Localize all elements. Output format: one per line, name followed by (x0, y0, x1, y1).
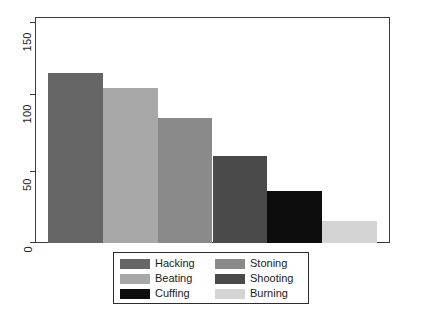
y-tick-label: 100 (23, 104, 34, 123)
legend-label: Shooting (250, 273, 293, 284)
legend-swatch-icon (215, 289, 245, 299)
bar-chart: 0 50 100 150 HackingStoningBeatingShooti… (0, 0, 422, 315)
bar-hacking (48, 73, 103, 243)
legend-item-stoning: Stoning (215, 256, 302, 271)
legend: HackingStoningBeatingShootingCuffingBurn… (113, 252, 309, 304)
bar-burning (322, 221, 377, 243)
bar-stoning (158, 118, 213, 243)
y-tick-label: 50 (23, 178, 34, 191)
legend-swatch-icon (120, 289, 150, 299)
bars-container (36, 18, 389, 243)
legend-swatch-icon (120, 274, 150, 284)
legend-item-hacking: Hacking (120, 256, 207, 271)
legend-label: Hacking (155, 258, 195, 269)
y-axis: 0 50 100 150 (0, 0, 36, 315)
legend-swatch-icon (215, 274, 245, 284)
y-tick-label: 150 (23, 32, 34, 51)
legend-swatch-icon (120, 259, 150, 269)
legend-label: Cuffing (155, 288, 190, 299)
legend-label: Beating (155, 273, 192, 284)
legend-label: Burning (250, 288, 288, 299)
legend-item-beating: Beating (120, 271, 207, 286)
legend-swatch-icon (215, 259, 245, 269)
legend-item-cuffing: Cuffing (120, 286, 207, 301)
legend-label: Stoning (250, 258, 287, 269)
legend-item-shooting: Shooting (215, 271, 302, 286)
bar-shooting (213, 156, 268, 243)
y-tick-label: 0 (23, 246, 34, 252)
legend-grid: HackingStoningBeatingShootingCuffingBurn… (120, 256, 302, 300)
legend-item-burning: Burning (215, 286, 302, 301)
bar-cuffing (267, 191, 322, 243)
bar-beating (103, 88, 158, 243)
